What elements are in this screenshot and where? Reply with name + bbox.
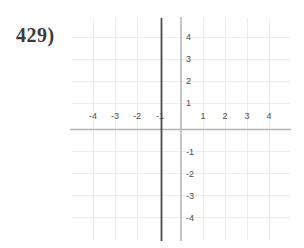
y-tick-label--4: -4 xyxy=(186,214,194,223)
x-tick-label--1: -1 xyxy=(156,112,164,121)
x-tick-label-4: 4 xyxy=(266,112,271,121)
graph-canvas xyxy=(0,0,304,248)
y-tick-label-3: 3 xyxy=(186,55,191,64)
y-tick-label--3: -3 xyxy=(186,192,194,201)
y-tick-label--1: -1 xyxy=(186,148,194,157)
x-tick-label-3: 3 xyxy=(244,112,249,121)
coordinate-graph: -4 -3 -2 -1 1 2 3 4 4 3 2 1 -1 -2 -3 -4 xyxy=(0,0,304,248)
worksheet-page: 429) xyxy=(0,0,304,248)
x-tick-label--2: -2 xyxy=(133,112,141,121)
y-tick-label-4: 4 xyxy=(186,33,191,42)
y-tick-label--2: -2 xyxy=(186,170,194,179)
x-tick-label--3: -3 xyxy=(111,112,119,121)
x-tick-label-2: 2 xyxy=(222,112,227,121)
x-tick-label-1: 1 xyxy=(200,112,205,121)
y-tick-label-1: 1 xyxy=(186,99,191,108)
x-tick-label--4: -4 xyxy=(89,112,97,121)
y-tick-label-2: 2 xyxy=(186,77,191,86)
